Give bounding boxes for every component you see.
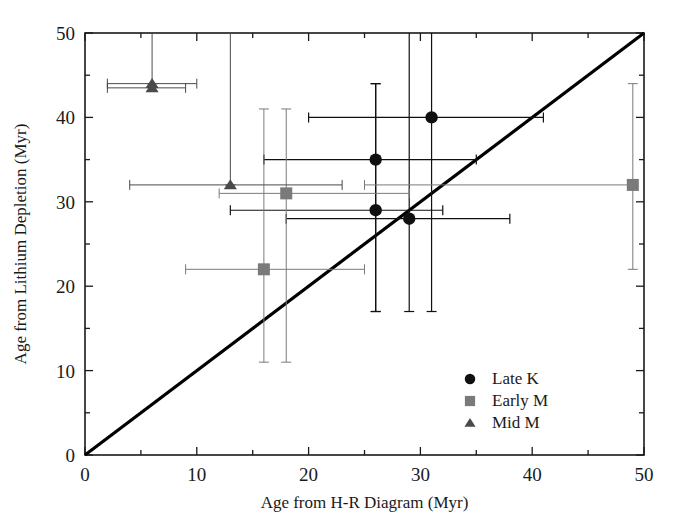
marker-late-k-2	[369, 204, 381, 216]
marker-late-k-1	[369, 153, 381, 165]
marker-late-k-0	[425, 111, 437, 123]
y-tick-label-40: 40	[56, 107, 75, 128]
x-tick-label-10: 10	[187, 464, 206, 485]
legend-marker-mid-m	[464, 418, 475, 427]
marker-early-m-0	[280, 187, 292, 199]
y-tick-label-50: 50	[56, 23, 75, 44]
plot-canvas: 0102030405001020304050Age from H-R Diagr…	[0, 0, 684, 527]
x-tick-label-40: 40	[523, 464, 542, 485]
legend-label-late-k: Late K	[492, 369, 539, 388]
y-tick-label-0: 0	[66, 445, 76, 466]
marker-early-m-2	[627, 179, 639, 191]
x-axis-label: Age from H-R Diagram (Myr)	[261, 493, 469, 512]
x-tick-label-50: 50	[635, 464, 654, 485]
y-tick-label-30: 30	[56, 192, 75, 213]
x-tick-label-30: 30	[411, 464, 430, 485]
y-tick-label-10: 10	[56, 361, 75, 382]
marker-early-m-1	[258, 263, 270, 275]
y-axis-label: Age from Lithium Depletion (Myr)	[11, 124, 30, 365]
x-tick-label-0: 0	[80, 464, 90, 485]
marker-mid-m-2	[224, 179, 237, 189]
x-tick-label-20: 20	[299, 464, 318, 485]
data-point-mid-m-2	[130, 33, 342, 190]
data-point-early-m-1	[186, 109, 365, 362]
y-tick-label-20: 20	[56, 276, 75, 297]
legend-label-early-m: Early M	[492, 391, 548, 410]
legend-label-mid-m: Mid M	[492, 413, 540, 432]
data-point-early-m-0	[219, 109, 409, 362]
legend-marker-late-k	[465, 374, 476, 385]
one-to-one-line	[85, 33, 644, 455]
marker-late-k-3	[403, 212, 415, 224]
data-point-early-m-2	[365, 84, 638, 270]
legend-marker-early-m	[465, 396, 475, 406]
scatter-plot-figure: 0102030405001020304050Age from H-R Diagr…	[0, 0, 684, 527]
